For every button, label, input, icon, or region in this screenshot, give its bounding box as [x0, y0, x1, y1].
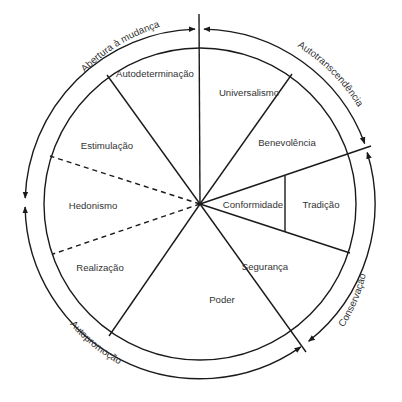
divider-autodeterminacao-universalismo: [199, 14, 200, 204]
values-circumplex-diagram: Universalismo Benevolência Conformidade …: [0, 0, 402, 402]
label-autodeterminacao: Autodeterminação: [116, 68, 194, 79]
higher-order-labels: Abertura à mudança Autotranscendência Co…: [68, 18, 368, 366]
divider-tradicao-seguranca: [200, 204, 350, 253]
label-conservacao: Conservação: [336, 272, 368, 329]
label-abertura-a-mudanca: Abertura à mudança: [78, 18, 161, 74]
label-autotranscendencia: Autotranscendência: [296, 39, 366, 109]
divider-hedonismo-estimulacao: [50, 156, 200, 204]
label-tradicao: Tradição: [303, 199, 340, 210]
label-hedonismo: Hedonismo: [69, 200, 118, 211]
label-realizacao: Realização: [76, 262, 123, 273]
label-conformidade: Conformidade: [223, 199, 283, 210]
label-benevolencia: Benevolência: [258, 137, 316, 148]
divider-seguranca-poder: [200, 204, 306, 352]
divider-realizacao-hedonismo: [53, 204, 200, 254]
arc-abertura: [25, 29, 195, 198]
label-seguranca: Segurança: [242, 261, 289, 272]
arc-autopromocao: [25, 207, 301, 379]
value-labels: Universalismo Benevolência Conformidade …: [69, 68, 340, 305]
label-universalismo: Universalismo: [219, 87, 279, 98]
label-poder: Poder: [209, 294, 235, 305]
label-estimulacao: Estimulação: [81, 140, 133, 151]
